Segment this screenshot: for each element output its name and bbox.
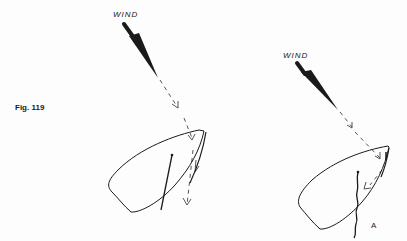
figure-canvas: Fig. 119 WIND WIND A bbox=[0, 0, 407, 241]
left-panel bbox=[109, 24, 206, 212]
dashed-wind-path-left bbox=[160, 80, 193, 205]
hull-outline-right bbox=[299, 146, 390, 229]
mast-line-left bbox=[161, 155, 172, 210]
right-panel bbox=[297, 63, 389, 238]
hull-outline-left bbox=[109, 130, 204, 212]
wind-arrow-right-icon bbox=[297, 63, 338, 110]
dashed-arrowheads-left bbox=[172, 101, 199, 205]
wavy-line-right bbox=[354, 172, 358, 238]
diagram-drawing bbox=[0, 0, 407, 241]
wind-arrow-left-icon bbox=[124, 24, 158, 78]
